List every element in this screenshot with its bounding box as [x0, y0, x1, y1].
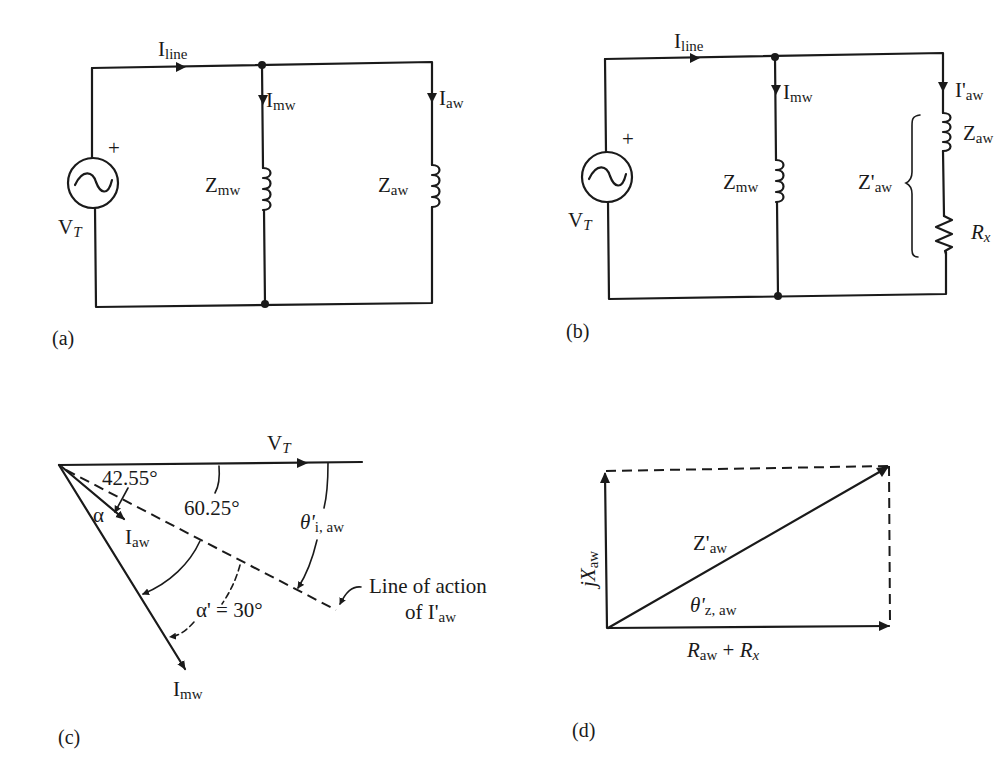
vt-arrow-icon — [297, 458, 308, 468]
z-phasor — [608, 467, 888, 628]
arrow-iline-icon — [176, 62, 186, 72]
arc-alpha-prime-bottom — [170, 622, 194, 637]
impedance-triangle-d — [600, 466, 890, 631]
alpha-prime-label: α' = 30° — [196, 600, 263, 621]
imw-label-b: Imw — [783, 82, 813, 105]
vt-label-c: VT — [267, 433, 291, 456]
theta-i-label: θ'i, aw — [300, 512, 344, 535]
rx-label-b: Rx — [971, 222, 991, 245]
iline-label-a: Iline — [158, 39, 188, 62]
dashed-right — [889, 466, 890, 624]
angle-42-label: 42.55° — [102, 468, 158, 489]
zmw-label-b: Zmw — [723, 172, 758, 195]
iaw-label-c: Iaw — [125, 527, 150, 550]
arrow-iaw-icon — [938, 82, 948, 92]
arc-60-bottom — [143, 541, 200, 594]
node-top — [258, 61, 266, 69]
dashed-top — [606, 466, 889, 471]
arc-theta-bottom — [298, 540, 317, 588]
jx-phasor — [605, 474, 607, 628]
iaw-prime-label-b: I'aw — [955, 80, 983, 103]
line-of-action-label-2: of I'aw — [405, 602, 456, 625]
r-sum-label: Raw + Rx — [687, 640, 759, 663]
z-arrow-icon — [876, 466, 889, 477]
inductor-aw-icon — [432, 165, 440, 207]
zaw-prime-label-b: Z'aw — [858, 172, 892, 195]
iaw-label-a: Iaw — [439, 88, 464, 111]
diagram-canvas — [0, 0, 1001, 765]
arc-theta-top — [324, 463, 328, 508]
caption-b: (b) — [566, 320, 589, 343]
imw-label-c: Imw — [173, 679, 203, 702]
arrow-iline-icon — [690, 53, 700, 63]
arrow-iaw-icon — [427, 93, 437, 103]
caption-c: (c) — [58, 726, 80, 749]
jx-arrow-icon — [600, 472, 610, 483]
alpha-label: α — [93, 505, 104, 526]
wire-mw-top — [775, 57, 776, 160]
vt-label-a: VT — [58, 217, 82, 240]
vt-phasor — [59, 462, 362, 465]
r-phasor — [608, 626, 889, 628]
brace-icon — [906, 115, 920, 257]
r-arrow-icon — [879, 621, 890, 631]
vt-label-b: VT — [568, 210, 592, 233]
wire-mid — [943, 151, 944, 216]
arc-60-top — [215, 466, 219, 493]
node-bottom — [774, 292, 782, 300]
plus-label-b: + — [622, 129, 634, 150]
caption-d: (d) — [572, 719, 595, 742]
inductor-mw-icon — [776, 160, 784, 202]
line-of-action-label-1: Line of action — [369, 576, 487, 597]
caption-a: (a) — [52, 327, 74, 350]
plus-label-a: + — [108, 138, 120, 159]
zmw-label-a: Zmw — [205, 175, 240, 198]
sine-icon — [589, 167, 626, 185]
node-top — [771, 53, 779, 61]
wire-mw-bottom — [264, 210, 265, 304]
arrow-imw-icon — [771, 85, 781, 95]
resistor-rx-icon — [936, 216, 952, 254]
z-prime-label: Z'aw — [693, 533, 727, 556]
zaw-label-b: Zaw — [963, 123, 993, 146]
angle-60-label: 60.25° — [184, 498, 240, 519]
wire-mw-top — [262, 65, 263, 168]
jx-label: jXaw — [578, 551, 601, 587]
inductor-mw-icon — [263, 168, 271, 210]
line-of-action-pointer — [340, 587, 361, 604]
theta-z-label: θ'z, aw — [690, 595, 736, 618]
inductor-aw-icon — [943, 113, 951, 151]
imw-label-a: Imw — [266, 90, 296, 113]
sine-icon — [75, 173, 112, 191]
iline-label-b: Iline — [674, 31, 704, 54]
imw-phasor — [59, 465, 185, 669]
circuit-b — [582, 53, 952, 300]
angle-42-pointer — [115, 488, 128, 512]
node-bottom — [261, 300, 269, 308]
wire-mw-bottom — [777, 202, 778, 296]
zaw-label-a: Zaw — [378, 175, 408, 198]
wire-left-top — [605, 59, 606, 152]
